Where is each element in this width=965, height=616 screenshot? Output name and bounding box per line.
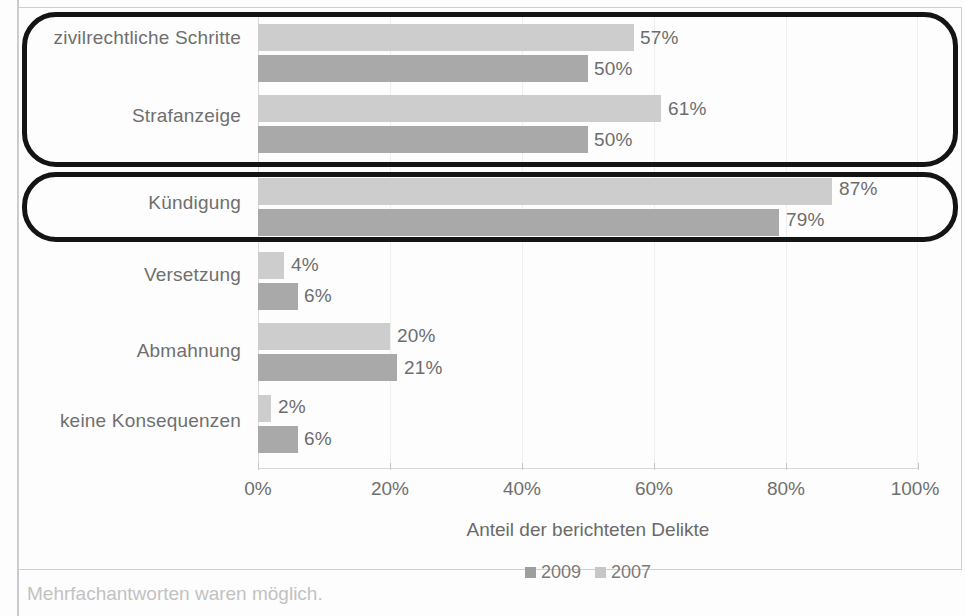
bar-value-zivilrechtliche-schritte-2009: 57% (640, 27, 679, 49)
x-tick-label-80: 80% (767, 478, 805, 500)
bar-value-abmahnung-2009: 20% (397, 325, 436, 347)
bar-value-zivilrechtliche-schritte-2007: 50% (594, 58, 633, 80)
bar-strafanzeige-2007 (258, 126, 588, 153)
bar-value-strafanzeige-2007: 50% (594, 129, 633, 151)
legend-item-2009: 2009 (525, 562, 581, 583)
x-tick-label-40: 40% (503, 478, 541, 500)
bar-abmahnung-2009 (258, 323, 390, 350)
x-tick-label-60: 60% (635, 478, 673, 500)
bar-value-kuendigung-2009: 87% (839, 178, 878, 200)
bar-value-strafanzeige-2009: 61% (668, 98, 707, 120)
category-axis-labels: zivilrechtliche Schritte Strafanzeige Kü… (0, 0, 249, 480)
category-label-strafanzeige: Strafanzeige (132, 105, 241, 127)
bar-zivilrechtliche-schritte-2009 (258, 24, 634, 51)
bar-keine-konsequenzen-2007 (258, 426, 298, 453)
x-tick-20 (390, 463, 391, 470)
bar-value-versetzung-2009: 4% (291, 254, 319, 276)
category-label-kuendigung: Kündigung (148, 192, 241, 214)
bar-versetzung-2009 (258, 252, 284, 279)
bar-value-abmahnung-2007: 21% (404, 357, 443, 379)
category-label-abmahnung: Abmahnung (137, 340, 241, 362)
category-label-keine-konsequenzen: keine Konsequenzen (60, 410, 241, 432)
chart-footnote: Mehrfachantworten waren möglich. (27, 583, 323, 605)
bar-keine-konsequenzen-2009 (258, 395, 271, 422)
x-tick-60 (654, 463, 655, 470)
x-axis-title: Anteil der berichteten Delikte (258, 519, 918, 541)
gridline-80 (786, 12, 787, 468)
chart-legend: 2009 2007 (258, 562, 918, 583)
bar-value-keine-konsequenzen-2009: 2% (278, 396, 306, 418)
gridline-60 (654, 12, 655, 468)
legend-label-2009: 2009 (541, 562, 581, 583)
category-label-zivilrechtliche-schritte: zivilrechtliche Schritte (54, 27, 241, 49)
category-label-versetzung: Versetzung (144, 264, 241, 286)
x-tick-40 (522, 463, 523, 470)
chart-screenshot: 57% 50% 61% 50% 87% 79% 4% 6% 20% 21% 2%… (0, 0, 965, 616)
bar-strafanzeige-2009 (258, 95, 661, 122)
bar-versetzung-2007 (258, 283, 298, 310)
x-axis-line (258, 468, 918, 469)
legend-item-2007: 2007 (595, 562, 651, 583)
bar-kuendigung-2009 (258, 178, 832, 205)
x-tick-80 (786, 463, 787, 470)
x-tick-label-0: 0% (244, 478, 271, 500)
x-tick-label-100: 100% (891, 478, 940, 500)
bar-value-keine-konsequenzen-2007: 6% (304, 428, 332, 450)
bar-abmahnung-2007 (258, 354, 397, 381)
legend-label-2007: 2007 (611, 562, 651, 583)
legend-swatch-icon-2009 (525, 567, 536, 578)
gridline-100 (917, 12, 918, 468)
bar-kuendigung-2007 (258, 209, 779, 236)
x-tick-100 (918, 463, 919, 470)
bar-value-kuendigung-2007: 79% (786, 209, 825, 231)
bar-zivilrechtliche-schritte-2007 (258, 55, 588, 82)
legend-swatch-icon-2007 (595, 567, 606, 578)
x-tick-label-20: 20% (371, 478, 409, 500)
x-tick-0 (258, 463, 259, 470)
bar-value-versetzung-2007: 6% (304, 285, 332, 307)
